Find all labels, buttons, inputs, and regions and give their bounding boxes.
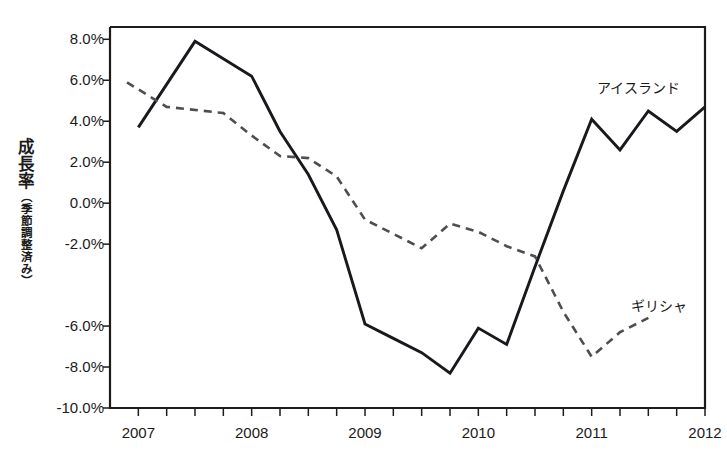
x-axis-tick-label: 2012 bbox=[688, 425, 721, 440]
x-axis-tick-label: 2011 bbox=[576, 425, 608, 440]
x-axis-tick-labels: 200720082009201020112012 bbox=[0, 0, 727, 471]
series-annotation-iceland: アイスランド bbox=[597, 81, 680, 95]
x-axis-tick-label: 2008 bbox=[235, 425, 268, 440]
x-axis-tick-label: 2009 bbox=[348, 425, 381, 440]
growth-rate-line-chart: 成長率 （季節調整済み） 8.0%6.0%4.0%2.0%0.0%-2.0%-6… bbox=[0, 0, 727, 471]
x-axis-tick-label: 2007 bbox=[122, 425, 155, 440]
series-annotation-greece: ギリシャ bbox=[631, 299, 687, 313]
x-axis-tick-label: 2010 bbox=[462, 425, 495, 440]
